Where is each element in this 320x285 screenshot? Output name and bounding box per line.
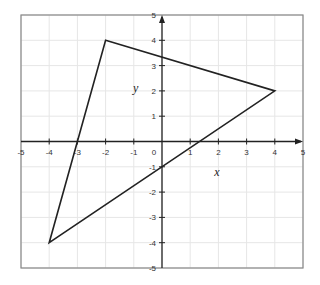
coordinate-plane-chart: -5-4-3-2-1012345-5-4-3-2-112345 x y bbox=[0, 0, 320, 285]
x-axis-arrow-icon bbox=[295, 139, 303, 145]
y-tick-label: 1 bbox=[152, 112, 157, 121]
x-tick-label: 3 bbox=[244, 148, 249, 157]
x-tick-label: 4 bbox=[273, 148, 278, 157]
y-tick-label: 5 bbox=[152, 11, 157, 20]
x-tick-label: -5 bbox=[17, 148, 25, 157]
x-tick-label: -1 bbox=[130, 148, 138, 157]
x-tick-label: 5 bbox=[301, 148, 306, 157]
x-tick-label: 2 bbox=[216, 148, 221, 157]
y-axis-label: y bbox=[132, 81, 139, 95]
x-tick-label: -4 bbox=[46, 148, 54, 157]
y-tick-label: -5 bbox=[149, 264, 157, 273]
axes bbox=[21, 15, 303, 268]
x-tick-label: -2 bbox=[102, 148, 110, 157]
y-tick-label: 3 bbox=[152, 62, 157, 71]
y-tick-label: -2 bbox=[149, 188, 157, 197]
y-tick-label: 2 bbox=[152, 87, 157, 96]
x-tick-label: 0 bbox=[152, 148, 157, 157]
x-axis-label: x bbox=[213, 165, 220, 179]
y-tick-label: -4 bbox=[149, 239, 157, 248]
y-axis-arrow-icon bbox=[159, 15, 165, 23]
y-tick-label: 4 bbox=[152, 36, 157, 45]
y-tick-label: -3 bbox=[149, 213, 157, 222]
